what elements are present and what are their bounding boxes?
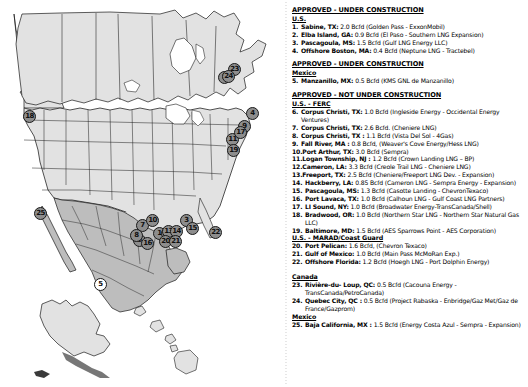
legend-entry-number: 4. <box>292 47 301 55</box>
map-marker-4[interactable]: 4 <box>246 107 259 120</box>
lng-terminal-map-page: 1234567891011121314151617181920212223242… <box>0 0 528 387</box>
map-marker-17[interactable]: 17 <box>234 126 247 139</box>
legend-entry: 1.Sabine, TX: 2.0 Bcfd (Golden Pass - Ex… <box>292 23 526 31</box>
legend-entry: 25.Baja California, MX : 1.5 Bcfd (Energ… <box>292 321 526 329</box>
legend-entry-location: Corpus Christi, TX: <box>301 124 363 131</box>
legend-entry-location: Baltimore, MD: <box>305 227 354 234</box>
legend-entry-detail: 1.5 Bcfd (Energy Costa Azul - Sempra - E… <box>374 321 521 328</box>
legend-entry-detail: 1.0 Bcfd (Broadwater Energy-TransCanada/… <box>351 203 492 210</box>
north-america-map: 1234567891011121314151617181920212223242… <box>0 0 288 387</box>
legend-entry: 5.Manzanillo, MX: 0.5 Bcfd (KMS GNL de M… <box>292 77 526 85</box>
legend-entry-detail: 1.2 Bcfd (Hoegh LNG - Port Dolphin Energ… <box>363 258 490 265</box>
legend-entry: 19.Baltimore, MD: 1.5 Bcfd (AES Sparrows… <box>292 227 526 235</box>
legend-entry-location: Baja California, MX : <box>305 321 372 328</box>
legend-entry-number: 22. <box>292 258 305 266</box>
legend-entry-detail: 3.3 Bcfd (Creole Trail LNG - Cheniere LN… <box>349 163 471 170</box>
legend-entry-detail: 1.0 Bcfd (Calhoun LNG - Gulf Coast LNG P… <box>361 195 505 202</box>
legend-entry-detail: 2.0 Bcfd (Golden Pass - ExxonMobil) <box>340 23 444 30</box>
legend-entry-number: 5. <box>292 77 301 85</box>
legend-entry-number: 24. <box>292 297 305 305</box>
legend-entry-detail: 1.0 Bcfd (Main Pass McMoRan Exp.) <box>356 250 459 257</box>
legend-entry: 3.Pascagoula, MS: 1.5 Bcfd (Gulf LNG Ene… <box>292 39 526 47</box>
map-marker-24[interactable]: 24 <box>222 70 235 83</box>
legend-entry-number: 25. <box>292 321 305 329</box>
legend-entry-location: Offshore Florida: <box>305 258 361 265</box>
legend-entry-number: 16. <box>292 195 305 203</box>
legend-entry-location: Manzanillo, MX: <box>301 77 353 84</box>
legend-entry-location: Quebec City, QC : <box>305 297 362 304</box>
legend-entry-number: 13. <box>292 171 302 179</box>
legend-entry: 17.LI Sound, NY: 1.0 Bcfd (Broadwater En… <box>292 203 526 211</box>
legend-entry: 12.Cameron, LA: 3.3 Bcfd (Creole Trail L… <box>292 163 526 171</box>
map-graphic <box>0 0 288 387</box>
map-marker-10[interactable]: 10 <box>146 214 159 227</box>
legend-entry-number: 8. <box>292 132 301 140</box>
legend-entry-location: Gulf of Mexico: <box>305 250 354 257</box>
legend-entry-number: 10. <box>292 148 302 156</box>
legend-entry: 4.Offshore Boston, MA: 0.4 Bcfd (Neptune… <box>292 47 526 55</box>
legend-entry-number: 23. <box>292 281 305 289</box>
legend-entry: 9.Fall River, MA : 0.8 Bcfd, (Weaver's C… <box>292 140 526 148</box>
legend-entry-location: Bradwood, OR: <box>305 211 354 218</box>
legend-entry-location: Hackberry, LA: <box>305 179 353 186</box>
map-marker-19[interactable]: 19 <box>227 144 240 157</box>
legend-section-gap <box>292 266 526 273</box>
legend-entry-detail: 0.8 Bcfd, (Weaver's Cove Energy/Hess LNG… <box>351 140 478 147</box>
legend-entry-location: Elba Island, GA: <box>301 31 353 38</box>
legend-entry-detail: 1.5 Bcfd (Gulf LNG Energy LLC) <box>357 39 448 46</box>
legend-entry-number: 3. <box>292 39 301 47</box>
legend-entry-detail: 1.3 Bcfd (Casotte Landing - ChevronTexac… <box>361 187 488 194</box>
legend-panel: APPROVED - UNDER CONSTRUCTIONU.S.1.Sabin… <box>289 0 528 387</box>
map-marker-16[interactable]: 16 <box>141 237 154 250</box>
legend-entry: 22.Offshore Florida: 1.2 Bcfd (Hoegh LNG… <box>292 258 526 266</box>
legend-subgroup-label: Mexico <box>292 313 526 321</box>
legend-entry-detail: 0.85 Bcfd (Cameron LNG - Sempra Energy -… <box>355 179 516 186</box>
legend-entry-number: 15. <box>292 187 305 195</box>
legend-entry: 6.Corpus Christi, TX: 1.0 Bcfd (Inglesid… <box>292 108 526 124</box>
legend-entry-number: 11. <box>292 155 302 163</box>
legend-entry-location: Port Pelican: <box>305 242 347 249</box>
legend-entry-number: 7. <box>292 124 301 132</box>
map-marker-5[interactable]: 5 <box>94 278 107 291</box>
legend-entry-number: 1. <box>292 23 301 31</box>
legend-entry-number: 19. <box>292 227 305 235</box>
legend-entry-location: Freeport, TX: <box>302 171 345 178</box>
legend-entry-number: 20. <box>292 242 305 250</box>
legend-entry: 8.Corpus Christi, TX : 1.1 Bcfd (Vista D… <box>292 132 526 140</box>
legend-section-heading: APPROVED - UNDER CONSTRUCTION <box>292 61 526 69</box>
legend-entry: 14.Hackberry, LA: 0.85 Bcfd (Cameron LNG… <box>292 179 526 187</box>
legend-section-heading: APPROVED - UNDER CONSTRUCTION <box>292 7 526 15</box>
legend-entry-detail: 1.2 Bcfd (Crown Landing LNG – BP) <box>372 155 474 162</box>
legend-entry-location: Corpus Christi, TX : <box>301 132 365 139</box>
legend-entry-number: 12. <box>292 163 302 171</box>
legend-entry-location: Offshore Boston, MA: <box>301 47 372 54</box>
legend-section-heading: APPROVED - NOT UNDER CONSTRUCTION <box>292 92 526 100</box>
map-marker-25[interactable]: 25 <box>34 207 47 220</box>
legend-entry-number: 18. <box>292 211 305 219</box>
legend-entry-number: 14. <box>292 179 305 187</box>
map-marker-22[interactable]: 22 <box>209 226 222 239</box>
legend-entry: 13.Freeport, TX: 2.5 Bcfd (Cheniere/Free… <box>292 171 526 179</box>
legend-subgroup-label: U.S. <box>292 15 526 23</box>
legend-entry-location: Pascagoula, MS: <box>301 39 355 46</box>
map-marker-15[interactable]: 15 <box>186 222 199 235</box>
legend-entry-detail: 1.5 Bcfd (AES Sparrows Point - AES Corpo… <box>356 227 496 234</box>
legend-entry-location: Port Lavaca, TX: <box>305 195 359 202</box>
legend-entry-detail: 1.6 Bcfd, (Chevron Texaco) <box>349 242 427 249</box>
legend-entry-location: Pascagoula, MS: <box>305 187 359 194</box>
map-marker-21[interactable]: 21 <box>169 235 182 248</box>
legend-entry-detail: 0.9 Bcfd (El Paso - Southern LNG Expansi… <box>355 31 484 38</box>
legend-entry-detail: 3.0 Bcfd (Sempra) <box>356 148 409 155</box>
legend-entry-location: Sabine, TX: <box>301 23 339 30</box>
legend-entry-detail: 1.1 Bcfd (Vista Del Sol - 4Gas) <box>366 132 453 139</box>
legend-entry-number: 17. <box>292 203 305 211</box>
legend-entry: 16.Port Lavaca, TX: 1.0 Bcfd (Calhoun LN… <box>292 195 526 203</box>
legend-subgroup-label: U.S. - MARAD/Coast Guard <box>292 234 526 242</box>
legend-entry-location: Fall River, MA : <box>301 140 350 147</box>
legend-entry: 23.Rivière-du- Loup, QC: 0.5 Bcfd (Cacou… <box>292 281 526 297</box>
legend-entry-detail: 0.5 Bcfd (KMS GNL de Manzanillo) <box>355 77 454 84</box>
map-marker-18[interactable]: 18 <box>23 110 36 123</box>
legend-entry-number: 21. <box>292 250 305 258</box>
legend-entry-location: Port Arthur, TX: <box>302 148 353 155</box>
legend-entry-number: 2. <box>292 31 301 39</box>
